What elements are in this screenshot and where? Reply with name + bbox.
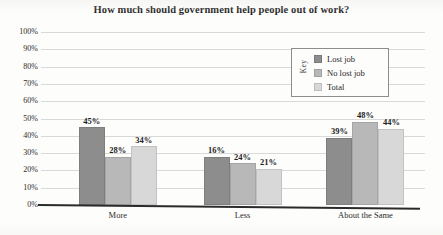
bar[interactable] (230, 163, 256, 205)
x-axis-labels: MoreLessAbout the Same (41, 210, 425, 230)
legend-item-label: Total (327, 81, 344, 93)
bar-value-label: 39% (322, 127, 356, 136)
bar[interactable] (378, 129, 404, 205)
y-axis-tick-label: 50% (2, 115, 38, 123)
y-axis-tick-label: 20% (2, 166, 38, 174)
bar[interactable] (256, 169, 282, 205)
bar-value-label: 34% (127, 136, 161, 145)
bar[interactable] (204, 157, 230, 205)
bar-value-label: 21% (252, 158, 286, 167)
y-axis-tick-label: 40% (2, 132, 38, 140)
y-axis-tick-label: 80% (2, 63, 38, 71)
bar-group: 45%28%34% (79, 32, 157, 205)
y-axis-tick-label: 30% (2, 149, 38, 157)
x-axis-category-label: About the Same (305, 210, 425, 220)
chart-title: How much should government help people o… (0, 4, 443, 15)
bar[interactable] (105, 157, 131, 205)
chart-legend: Key Lost jobNo lost jobTotal (291, 48, 389, 97)
legend-swatch-icon (314, 55, 322, 63)
y-axis-tick-label: 70% (2, 80, 38, 88)
legend-title: Key (299, 55, 308, 79)
x-axis-category-label: More (58, 210, 178, 220)
bar-chart: How much should government help people o… (0, 0, 443, 235)
x-axis-category-label: Less (183, 210, 303, 220)
bar[interactable] (326, 138, 352, 205)
legend-swatch-icon (314, 83, 322, 91)
bar-value-label: 45% (75, 117, 109, 126)
legend-swatch-icon (314, 69, 322, 77)
y-axis-tick-label: 90% (2, 45, 38, 53)
bar-group: 16%24%21% (204, 32, 282, 205)
bar[interactable] (79, 127, 105, 205)
bar-value-label: 28% (101, 146, 135, 155)
y-axis-tick-label: 10% (2, 184, 38, 192)
bar[interactable] (352, 122, 378, 205)
y-axis-tick-label: 100% (2, 28, 38, 36)
y-axis-tick-label: 0% (2, 201, 38, 209)
y-axis: 100%90%80%70%60%50%40%30%20%10%0% (0, 32, 38, 205)
y-axis-tick-label: 60% (2, 97, 38, 105)
legend-item-label: Lost job (327, 53, 355, 65)
bar-value-label: 44% (374, 118, 408, 127)
legend-item-label: No lost job (327, 67, 365, 79)
bar[interactable] (131, 146, 157, 205)
